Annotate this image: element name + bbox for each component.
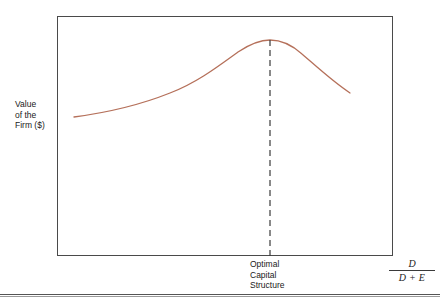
figure-container: Value of the Firm ($) Optimal Capital St… bbox=[0, 0, 440, 304]
annotation-line-3: Structure bbox=[250, 280, 285, 291]
plot-frame bbox=[57, 16, 393, 256]
bottom-divider-rule-shadow bbox=[0, 296, 440, 297]
fraction-numerator: D bbox=[389, 258, 435, 270]
annotation-line-2: Capital bbox=[250, 270, 285, 281]
bottom-divider-rule bbox=[0, 294, 440, 295]
y-axis-label-line-3: Firm ($) bbox=[15, 120, 59, 131]
x-axis-label-fraction: D D + E bbox=[389, 258, 435, 284]
annotation-line-1: Optimal bbox=[250, 259, 285, 270]
y-axis-label-line-2: of the bbox=[15, 110, 59, 121]
y-axis-label: Value of the Firm ($) bbox=[15, 99, 59, 131]
fraction-denominator: D + E bbox=[389, 271, 435, 284]
y-axis-label-line-1: Value bbox=[15, 99, 59, 110]
optimal-capital-structure-label: Optimal Capital Structure bbox=[250, 259, 285, 291]
